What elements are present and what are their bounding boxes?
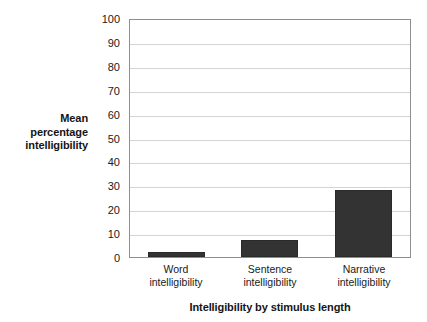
bar-slot xyxy=(317,20,410,257)
x-category-label-1-line-0: Sentence xyxy=(223,263,317,276)
y-axis-title-line-1: Mean xyxy=(4,112,88,126)
y-tick-label-60: 60 xyxy=(86,109,120,120)
y-tick-label-0: 0 xyxy=(86,253,120,264)
bar-word xyxy=(148,252,205,257)
x-category-label-1-line-1: intelligibility xyxy=(223,276,317,289)
y-axis-title-line-2: percentage xyxy=(4,126,88,140)
y-tick-label-70: 70 xyxy=(86,85,120,96)
y-tick-label-20: 20 xyxy=(86,205,120,216)
x-category-label-2-line-0: Narrative xyxy=(317,263,411,276)
x-axis-category-labels: WordintelligibilitySentenceintelligibili… xyxy=(129,263,411,289)
bar-slot xyxy=(130,20,223,257)
y-axis-title: Mean percentage intelligibility xyxy=(4,112,88,153)
y-tick-label-80: 80 xyxy=(86,61,120,72)
y-tick-label-100: 100 xyxy=(86,14,120,25)
y-axis-title-line-3: intelligibility xyxy=(4,139,88,153)
x-category-label-0-line-1: intelligibility xyxy=(129,276,223,289)
y-tick-label-30: 30 xyxy=(86,181,120,192)
bar-chart-figure: Mean percentage intelligibility 10090807… xyxy=(0,0,427,322)
bar-sentence xyxy=(241,240,298,257)
x-category-label-0: Wordintelligibility xyxy=(129,263,223,289)
y-tick-label-90: 90 xyxy=(86,37,120,48)
y-tick-label-40: 40 xyxy=(86,157,120,168)
x-axis-title: Intelligibility by stimulus length xyxy=(129,301,411,313)
plot-area xyxy=(129,19,411,258)
x-category-label-2: Narrativeintelligibility xyxy=(317,263,411,289)
bar-narrative xyxy=(335,190,392,257)
bar-slot xyxy=(223,20,316,257)
x-category-label-0-line-0: Word xyxy=(129,263,223,276)
x-category-label-2-line-1: intelligibility xyxy=(317,276,411,289)
y-axis-tick-labels: 1009080706050403020100 xyxy=(86,19,120,258)
x-category-label-1: Sentenceintelligibility xyxy=(223,263,317,289)
y-tick-label-10: 10 xyxy=(86,229,120,240)
bars-layer xyxy=(130,20,410,257)
y-tick-label-50: 50 xyxy=(86,133,120,144)
